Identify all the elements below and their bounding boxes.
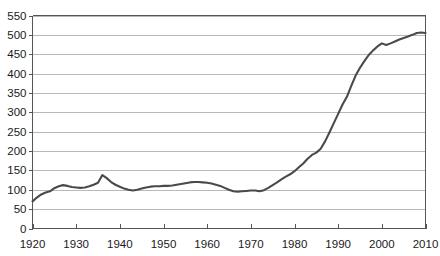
y-tick-label-250: 250 xyxy=(7,126,26,138)
y-tick-label-150: 150 xyxy=(7,164,26,176)
x-tick-label-1960: 1960 xyxy=(194,238,220,250)
data-series xyxy=(33,33,426,202)
line-chart: 050100150200250300350400450500550 192019… xyxy=(0,0,440,256)
y-tick-label-550: 550 xyxy=(7,10,26,22)
y-tick-label-350: 350 xyxy=(7,87,26,99)
x-tick-label-1990: 1990 xyxy=(325,238,351,250)
x-tick-label-1920: 1920 xyxy=(20,238,46,250)
y-tick-label-450: 450 xyxy=(7,48,26,60)
y-tick-label-0: 0 xyxy=(20,223,26,235)
x-axis-ticks xyxy=(34,224,427,229)
gridlines xyxy=(33,17,426,210)
series-line-1 xyxy=(33,33,426,202)
y-tick-label-200: 200 xyxy=(7,145,26,157)
x-tick-label-1980: 1980 xyxy=(282,238,308,250)
y-tick-label-100: 100 xyxy=(7,184,26,196)
x-tick-label-1970: 1970 xyxy=(238,238,264,250)
x-tick-label-2000: 2000 xyxy=(369,238,395,250)
x-tick-label-2010: 2010 xyxy=(413,238,439,250)
chart-canvas: 050100150200250300350400450500550 192019… xyxy=(0,0,440,256)
y-tick-label-50: 50 xyxy=(14,203,27,215)
x-axis-tick-labels: 1920193019401950196019701980199020002010 xyxy=(20,238,439,250)
y-tick-label-300: 300 xyxy=(7,106,26,118)
plot-frame xyxy=(33,16,426,229)
y-tick-label-400: 400 xyxy=(7,68,26,80)
x-tick-label-1940: 1940 xyxy=(107,238,133,250)
x-tick-label-1930: 1930 xyxy=(63,238,89,250)
x-tick-label-1950: 1950 xyxy=(151,238,177,250)
y-axis-tick-labels: 050100150200250300350400450500550 xyxy=(7,10,26,235)
y-tick-label-500: 500 xyxy=(7,29,26,41)
y-axis-ticks xyxy=(29,17,33,230)
